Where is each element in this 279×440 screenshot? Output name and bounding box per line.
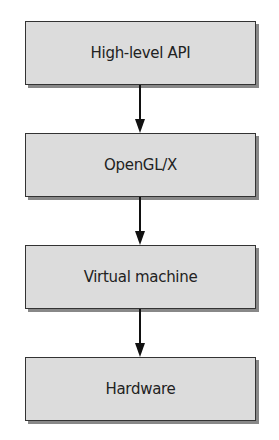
arrow-head-icon — [135, 119, 145, 133]
layer-label: High-level API — [91, 44, 191, 62]
layer-label: Virtual machine — [84, 268, 198, 286]
layer-label: Hardware — [105, 380, 175, 398]
layer-label: OpenGL/X — [104, 156, 177, 174]
arrow-line — [139, 85, 141, 121]
arrow-head-icon — [135, 343, 145, 357]
arrow-line — [139, 309, 141, 345]
layer-hardware: Hardware — [25, 357, 256, 421]
layer-virtual-machine: Virtual machine — [25, 245, 256, 309]
arrow-head-icon — [135, 231, 145, 245]
layer-opengl-x: OpenGL/X — [25, 133, 256, 197]
layer-high-level-api: High-level API — [25, 21, 256, 85]
arrow-line — [139, 197, 141, 233]
